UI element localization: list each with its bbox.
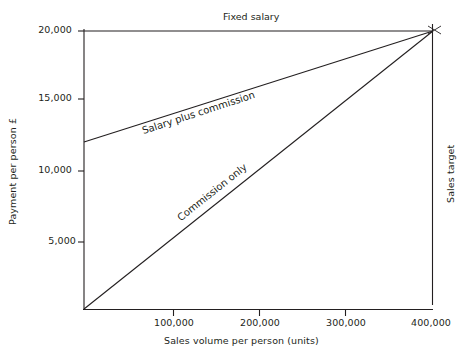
x-tick-label-200000: 200,000 xyxy=(225,318,295,328)
y-tick-label-10000: 10,000 xyxy=(12,165,72,175)
x-tick-label-100000: 100,000 xyxy=(139,318,209,328)
y-tick-label-20000: 20,000 xyxy=(12,25,72,35)
y-tick-label-15000: 15,000 xyxy=(12,93,72,103)
y-axis-title: Payment per person £ xyxy=(8,118,18,225)
x-axis-title: Sales volume per person (units) xyxy=(164,336,319,346)
x-tick-label-400000: 400,000 xyxy=(396,318,461,328)
y-tick-label-5000: 5,000 xyxy=(16,236,76,246)
chart-title: Fixed salary xyxy=(223,11,279,22)
sales-target-label: Sales target xyxy=(446,145,456,203)
x-tick-label-300000: 300,000 xyxy=(311,318,381,328)
chart-container: Fixed salary 20,000 15,000 10,000 5,000 … xyxy=(0,0,461,360)
